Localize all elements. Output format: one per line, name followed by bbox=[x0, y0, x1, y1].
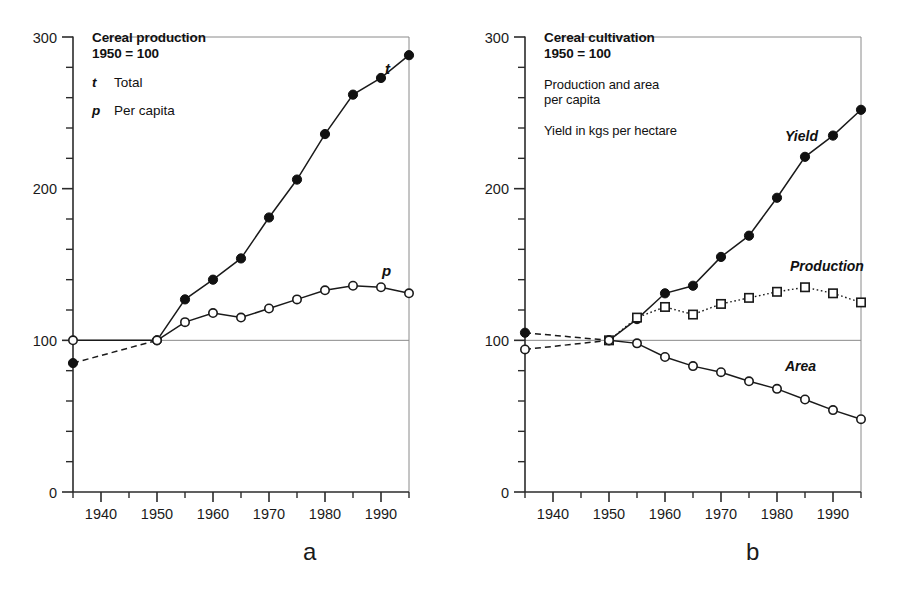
series-annotation-t: t bbox=[385, 60, 390, 77]
svg-text:100: 100 bbox=[33, 333, 57, 349]
svg-text:1960: 1960 bbox=[197, 506, 229, 522]
series-annotation-yield: Yield bbox=[785, 128, 818, 144]
panel-a-title: Cereal production 1950 = 100 bbox=[92, 30, 206, 62]
svg-text:100: 100 bbox=[485, 333, 509, 349]
panel-a: 0100200300194019501960197019801990 Cerea… bbox=[0, 0, 455, 609]
panel-a-plot: 0100200300194019501960197019801990 bbox=[0, 0, 455, 609]
svg-text:1960: 1960 bbox=[649, 506, 681, 522]
panel-letter-b: b bbox=[746, 538, 759, 566]
panel-b-note-line1: Production and area bbox=[544, 77, 659, 92]
svg-text:0: 0 bbox=[49, 485, 57, 501]
svg-text:1990: 1990 bbox=[365, 506, 397, 522]
legend-key-t: t bbox=[92, 75, 114, 90]
svg-text:1940: 1940 bbox=[85, 506, 117, 522]
svg-text:1970: 1970 bbox=[705, 506, 737, 522]
svg-text:1950: 1950 bbox=[593, 506, 625, 522]
series-annotation-area: Area bbox=[785, 358, 816, 374]
svg-text:1990: 1990 bbox=[817, 506, 849, 522]
panel-b-legend: Cereal cultivation 1950 = 100 Production… bbox=[544, 30, 677, 139]
panel-b-note-production-area: Production and area per capita bbox=[544, 77, 677, 108]
panel-a-legend-item-per-capita: p Per capita bbox=[92, 103, 206, 118]
svg-text:1980: 1980 bbox=[309, 506, 341, 522]
panel-b-note-line2: per capita bbox=[544, 92, 600, 107]
legend-label-total: Total bbox=[114, 75, 143, 90]
panel-b: 0100200300194019501960197019801990 Cerea… bbox=[452, 0, 907, 609]
series-annotation-p: p bbox=[382, 262, 391, 279]
figure-cereal-production-cultivation: 0100200300194019501960197019801990 Cerea… bbox=[0, 0, 909, 609]
svg-text:1970: 1970 bbox=[253, 506, 285, 522]
panel-b-title: Cereal cultivation 1950 = 100 bbox=[544, 30, 677, 62]
svg-text:300: 300 bbox=[485, 30, 509, 46]
panel-b-title-line1: Cereal cultivation bbox=[544, 30, 655, 45]
legend-label-per-capita: Per capita bbox=[114, 103, 175, 118]
panel-b-title-line2: 1950 = 100 bbox=[544, 46, 611, 61]
panel-a-title-line2: 1950 = 100 bbox=[92, 46, 159, 61]
panel-a-legend-item-total: t Total bbox=[92, 75, 206, 90]
svg-text:1940: 1940 bbox=[537, 506, 569, 522]
svg-text:0: 0 bbox=[501, 485, 509, 501]
svg-text:200: 200 bbox=[485, 181, 509, 197]
panel-b-note-line3: Yield in kgs per hectare bbox=[544, 123, 677, 138]
svg-text:200: 200 bbox=[33, 181, 57, 197]
panel-letter-a: a bbox=[303, 538, 316, 566]
series-annotation-production: Production bbox=[790, 258, 864, 274]
svg-text:300: 300 bbox=[33, 30, 57, 46]
panel-a-title-line1: Cereal production bbox=[92, 30, 206, 45]
legend-key-p: p bbox=[92, 103, 114, 118]
panel-b-plot: 0100200300194019501960197019801990 bbox=[452, 0, 909, 609]
panel-b-note-yield: Yield in kgs per hectare bbox=[544, 123, 677, 139]
svg-text:1950: 1950 bbox=[141, 506, 173, 522]
svg-text:1980: 1980 bbox=[761, 506, 793, 522]
panel-a-legend: Cereal production 1950 = 100 t Total p P… bbox=[92, 30, 206, 118]
